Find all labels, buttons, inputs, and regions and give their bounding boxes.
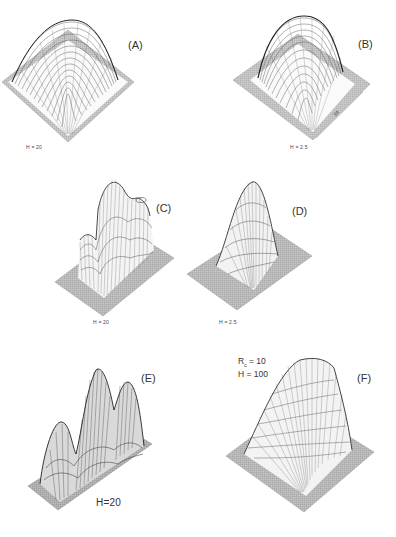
parameter-label-f: Rc = 10 H = 100	[238, 357, 268, 379]
panel-label-a: (A)	[128, 39, 143, 51]
panel-label-d: (D)	[292, 205, 307, 217]
panel-c: (C) H = 20	[0, 170, 200, 340]
parameter-label-b: H = 2.5	[290, 144, 308, 150]
surface-plot-c	[0, 170, 200, 340]
surface-plot-e	[0, 350, 200, 537]
panel-label-b: (B)	[358, 38, 373, 50]
panel-b: (B) 2a H = 2.5	[200, 0, 396, 160]
parameter-label-d: H = 2.5	[219, 319, 237, 325]
rc-line: Rc = 10	[238, 357, 268, 370]
parameter-label-c: H = 20	[93, 319, 109, 325]
panel-a: (A) H = 20	[0, 0, 200, 160]
panel-f: Rc = 10 H = 100 (F)	[200, 350, 396, 537]
panel-e: (E) H=20	[0, 350, 200, 537]
surface-plot-b	[200, 0, 396, 160]
surface-plot-a	[0, 0, 200, 160]
panel-label-f: (F)	[357, 372, 371, 384]
h-line: H = 100	[238, 370, 268, 379]
parameter-label-a: H = 20	[26, 144, 42, 150]
panel-label-c: (C)	[156, 202, 171, 214]
panel-d: (D) H = 2.5	[180, 170, 340, 340]
parameter-label-e: H=20	[96, 497, 121, 508]
surface-plot-d	[180, 170, 340, 340]
panel-label-e: (E)	[141, 372, 156, 384]
